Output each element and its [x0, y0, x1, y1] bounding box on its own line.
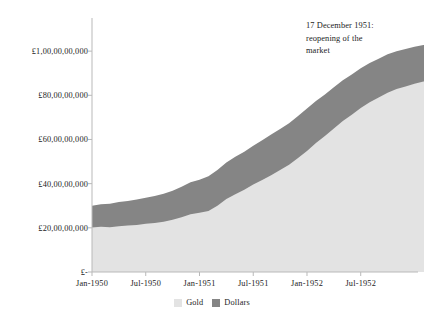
y-tick-label: £20,00,00,000 — [38, 223, 88, 232]
chart-legend: Gold Dollars — [0, 298, 424, 307]
y-tick-label: £60,00,00,000 — [38, 135, 88, 144]
x-tick-label: Jan-1950 — [76, 279, 108, 288]
y-tick-label: £- — [81, 268, 88, 277]
x-tick-label: Jan-1952 — [291, 279, 323, 288]
y-tick-label: £40,00,00,000 — [38, 179, 88, 188]
x-tick-label: Jan-1951 — [183, 279, 215, 288]
legend-item-gold: Gold — [174, 298, 203, 307]
legend-swatch-dollars — [212, 299, 220, 307]
x-tick-label: Jul-1952 — [345, 279, 376, 288]
y-tick-label: £1,00,00,00,000 — [32, 47, 88, 56]
annotation-text: 17 December 1951: reopening of the marke… — [306, 20, 418, 58]
annotation-line-3: market — [306, 45, 418, 58]
legend-label-gold: Gold — [186, 298, 203, 307]
x-tick-label: Jul-1951 — [238, 279, 269, 288]
legend-swatch-gold — [174, 299, 182, 307]
x-tick-label: Jul-1950 — [130, 279, 161, 288]
annotation-line-1: 17 December 1951: — [306, 20, 418, 33]
legend-item-dollars: Dollars — [212, 298, 249, 307]
stacked-area-chart: £1,00,00,00,000£80,00,00,000£60,00,00,00… — [0, 0, 424, 323]
annotation-line-2: reopening of the — [306, 33, 418, 46]
y-axis-labels: £1,00,00,00,000£80,00,00,000£60,00,00,00… — [0, 0, 88, 323]
y-tick-label: £80,00,00,000 — [38, 91, 88, 100]
legend-label-dollars: Dollars — [224, 298, 249, 307]
